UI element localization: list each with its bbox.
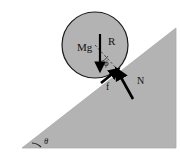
- theta-label: θ: [44, 136, 48, 146]
- radius-label: R: [108, 35, 116, 47]
- diagram-canvas: Mg R ϕ N f θ: [0, 0, 181, 156]
- phi-label: ϕ: [104, 58, 109, 68]
- physics-diagram-figure: Mg R ϕ N f θ: [0, 0, 181, 156]
- normal-force-label: N: [137, 75, 144, 86]
- weight-label: Mg: [77, 41, 93, 53]
